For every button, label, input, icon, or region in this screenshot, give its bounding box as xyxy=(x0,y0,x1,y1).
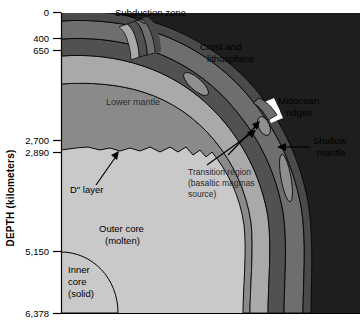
label-crust-lithosphere-line1: Crust and xyxy=(200,41,241,52)
cross-section-svg: 0 400 650 2,700 2,890 5,150 6,378 DEPTH … xyxy=(0,0,360,335)
label-shallow-mantle-line2: mantle xyxy=(317,147,346,158)
label-outer-core-line1: Outer core xyxy=(99,223,144,234)
label-midocean-ridges-line2: ridges xyxy=(286,107,312,118)
label-midocean-ridges-line1: Midocean xyxy=(278,95,319,106)
depth-axis-title: DEPTH (kilometers) xyxy=(5,150,16,247)
tick-label-650: 650 xyxy=(33,45,49,56)
label-lower-mantle: Lower mantle xyxy=(106,97,160,107)
earth-cross-section-figure: 0 400 650 2,700 2,890 5,150 6,378 DEPTH … xyxy=(0,0,360,335)
label-transition-region-line3: source) xyxy=(188,189,217,199)
tick-label-400: 400 xyxy=(33,33,49,44)
label-transition-region-line1: Transition region xyxy=(188,167,251,177)
label-crust-lithosphere-line2: lithosphere xyxy=(207,53,253,64)
tick-label-0: 0 xyxy=(44,7,49,18)
tick-label-5150: 5,150 xyxy=(25,246,49,257)
tick-label-2700: 2,700 xyxy=(25,135,49,146)
axis-tick-labels: 0 400 650 2,700 2,890 5,150 6,378 xyxy=(25,7,49,319)
label-shallow-mantle-line1: Shallow xyxy=(313,135,346,146)
tick-label-2890: 2,890 xyxy=(25,147,49,158)
label-outer-core-line2: (molten) xyxy=(105,235,140,246)
axis-ticks xyxy=(53,13,61,314)
tick-label-6378: 6,378 xyxy=(25,308,49,319)
label-subduction-zone: Subduction zone xyxy=(115,7,186,18)
label-inner-core-line3: (solid) xyxy=(68,288,94,299)
label-inner-core-line1: Inner xyxy=(68,264,90,275)
label-inner-core-line2: core xyxy=(68,276,86,287)
label-d-double-prime-layer: D" layer xyxy=(70,184,103,195)
label-transition-region-line2: (basaltic magmas xyxy=(188,178,255,188)
